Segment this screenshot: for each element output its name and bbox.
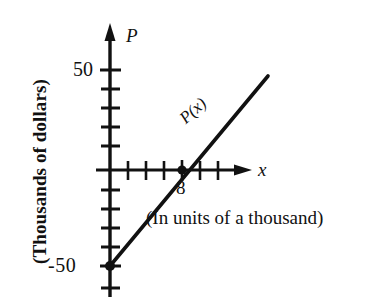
vertical-axis-arrowhead xyxy=(105,23,116,41)
units-note: (In units of a thousand) xyxy=(146,208,323,227)
vertical-axis-group xyxy=(105,23,116,297)
horizontal-axis-arrowhead xyxy=(234,165,252,176)
horizontal-axis-group xyxy=(96,165,252,176)
vertical-axis-label: P xyxy=(126,26,138,45)
horizontal-axis-label: x xyxy=(258,160,266,179)
x-tick-label-8: 8 xyxy=(176,178,186,197)
graph-figure: (Thousands of dollars) P x 50 -50 8 P(x)… xyxy=(0,0,379,301)
vertical-axis-caption: (Thousands of dollars) xyxy=(30,47,49,297)
start-point-marker xyxy=(105,261,115,271)
y-tick-label-negative-50: -50 xyxy=(48,255,76,275)
y-tick-label-50: 50 xyxy=(73,59,93,79)
x-intercept-marker xyxy=(177,165,186,174)
